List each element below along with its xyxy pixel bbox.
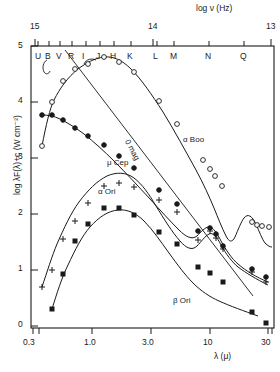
figure-sed-plot: log ν (Hz) 15 14 13 U B V R I J H K L M …	[0, 0, 280, 372]
marker-plus	[85, 200, 91, 206]
marker-plus	[39, 284, 45, 290]
y-axis-ticks	[31, 46, 38, 326]
top-axis-ticks	[35, 39, 271, 46]
marker-plus	[60, 236, 66, 242]
marker-plus	[131, 184, 137, 190]
series-beta-ori	[50, 206, 268, 325]
marker-plus	[174, 209, 180, 215]
series-zero-mag	[65, 50, 253, 296]
marker-plus	[49, 267, 55, 273]
x-axis-ticks	[33, 328, 272, 334]
plot-frame	[31, 46, 274, 328]
marker-plus	[156, 197, 162, 203]
series-mu-cep	[40, 113, 269, 282]
plot-canvas	[0, 0, 280, 372]
marker-plus	[116, 180, 122, 186]
marker-plus	[101, 183, 107, 189]
series-alpha-boo	[40, 55, 272, 247]
marker-plus	[72, 218, 78, 224]
